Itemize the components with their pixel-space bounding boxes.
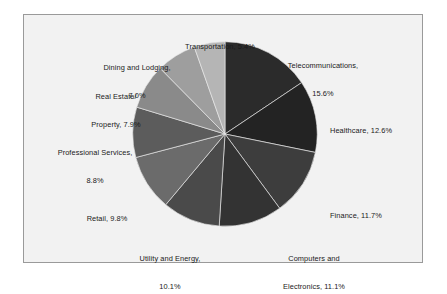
slice-label-finance-line1: Finance, 11.7% [330, 211, 440, 220]
slice-label-utility-and-energy-line1: Utility and Energy, [110, 254, 230, 263]
slice-label-utility-and-energy-line2: 10.1% [110, 282, 230, 291]
slice-label-professional-services-line1: Professional Services, [30, 148, 160, 157]
slice-label-retail-line1: Retail, 9.8% [62, 214, 152, 223]
slice-label-professional-services: Professional Services, 8.8% [30, 129, 160, 204]
slice-label-dining-and-lodging-line1: Dining and Lodging, [72, 63, 202, 72]
slice-label-healthcare-line1: Healthcare, 12.6% [330, 126, 442, 135]
slice-label-computers-and-electronics-line1: Computers and [252, 254, 376, 263]
slice-label-utility-and-energy: Utility and Energy, 10.1% [110, 235, 230, 294]
slice-label-computers-and-electronics-line2: Electronics, 11.1% [252, 282, 376, 291]
slice-label-real-estate-property-line1: Real Estate/ [59, 92, 173, 101]
slice-label-finance: Finance, 11.7% [330, 192, 440, 239]
slice-label-telecommunications: Telecommunications, 15.6% [263, 42, 383, 117]
slice-label-telecommunications-line2: 15.6% [263, 89, 383, 98]
slice-label-computers-and-electronics: Computers and Electronics, 11.1% [252, 235, 376, 294]
slice-label-telecommunications-line1: Telecommunications, [263, 61, 383, 70]
slice-label-professional-services-line2: 8.8% [30, 176, 160, 185]
